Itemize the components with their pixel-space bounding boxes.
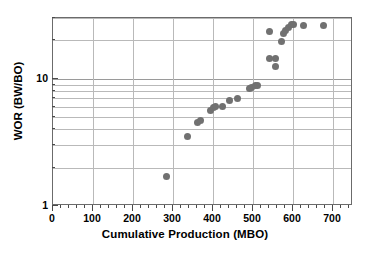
x-tick-major [252, 205, 253, 211]
x-tick-major [292, 205, 293, 211]
data-point [272, 63, 279, 70]
y-tick-minor [52, 167, 55, 168]
x-tick-minor [116, 205, 117, 208]
x-tick-minor [84, 205, 85, 208]
x-tick-label: 400 [192, 212, 232, 224]
x-tick-major [172, 205, 173, 211]
data-point [219, 103, 226, 110]
x-tick-label: 700 [312, 212, 352, 224]
x-tick-minor [124, 205, 125, 208]
x-tick-minor [260, 205, 261, 208]
data-point [320, 22, 327, 29]
y-tick-minor [52, 128, 55, 129]
data-point [290, 21, 297, 28]
x-tick-minor [156, 205, 157, 208]
y-tick-minor [52, 39, 55, 40]
x-tick-major [132, 205, 133, 211]
x-tick-minor [164, 205, 165, 208]
x-tick-minor [220, 205, 221, 208]
x-tick-label: 600 [272, 212, 312, 224]
data-point [163, 173, 170, 180]
x-tick-major [92, 205, 93, 211]
x-tick-minor [60, 205, 61, 208]
gridline-horizontal [53, 40, 351, 41]
x-tick-minor [340, 205, 341, 208]
gridline-horizontal [53, 79, 351, 80]
x-tick-minor [68, 205, 69, 208]
x-axis-title: Cumulative Production (MBO) [0, 228, 370, 240]
x-tick-minor [204, 205, 205, 208]
y-tick-minor [52, 84, 55, 85]
y-tick-minor [52, 90, 55, 91]
data-point [254, 82, 261, 89]
x-tick-label: 100 [72, 212, 112, 224]
gridline-vertical [173, 18, 174, 204]
data-point [300, 22, 307, 29]
gridline-horizontal [53, 98, 351, 99]
y-tick-label: 1 [8, 199, 48, 211]
x-tick-minor [316, 205, 317, 208]
y-tick-major [52, 78, 58, 79]
x-tick-minor [196, 205, 197, 208]
x-tick-minor [300, 205, 301, 208]
y-axis-title: WOR (BW/BO) [12, 21, 24, 181]
gridline-horizontal [53, 168, 351, 169]
data-point [226, 97, 233, 104]
x-tick-minor [276, 205, 277, 208]
plot-area [52, 17, 352, 205]
x-tick-minor [284, 205, 285, 208]
x-tick-minor [236, 205, 237, 208]
x-tick-minor [180, 205, 181, 208]
x-tick-minor [348, 205, 349, 208]
data-point [266, 28, 273, 35]
data-point [197, 117, 204, 124]
data-point [234, 95, 241, 102]
x-tick-major [212, 205, 213, 211]
gridline-vertical [253, 18, 254, 204]
x-tick-minor [228, 205, 229, 208]
x-tick-major [332, 205, 333, 211]
data-point [278, 38, 285, 45]
x-tick-minor [188, 205, 189, 208]
x-tick-minor [244, 205, 245, 208]
x-tick-minor [108, 205, 109, 208]
x-tick-minor [148, 205, 149, 208]
y-tick-major [52, 205, 58, 206]
gridline-horizontal [53, 107, 351, 108]
x-tick-minor [100, 205, 101, 208]
x-tick-minor [268, 205, 269, 208]
gridline-vertical [93, 18, 94, 204]
x-tick-label: 500 [232, 212, 272, 224]
x-tick-minor [76, 205, 77, 208]
gridline-vertical [333, 18, 334, 204]
gridline-vertical [133, 18, 134, 204]
x-tick-label: 200 [112, 212, 152, 224]
gridline-vertical [293, 18, 294, 204]
y-tick-minor [52, 97, 55, 98]
y-tick-minor [52, 106, 55, 107]
gridline-horizontal [53, 85, 351, 86]
x-tick-minor [324, 205, 325, 208]
x-tick-minor [140, 205, 141, 208]
x-tick-label: 300 [152, 212, 192, 224]
scatter-chart: 0100200300400500600700 110 Cumulative Pr… [0, 0, 370, 256]
x-tick-label: 0 [32, 212, 72, 224]
gridline-horizontal [53, 129, 351, 130]
gridline-horizontal [53, 145, 351, 146]
y-tick-minor [52, 144, 55, 145]
x-tick-minor [308, 205, 309, 208]
y-tick-minor [52, 116, 55, 117]
gridline-horizontal [53, 18, 351, 19]
gridline-horizontal [53, 91, 351, 92]
data-point [272, 55, 279, 62]
data-point [184, 133, 191, 140]
y-tick-minor [52, 17, 55, 18]
